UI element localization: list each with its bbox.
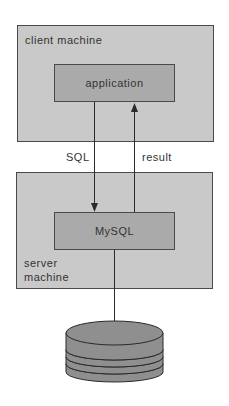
result-arrow-icon	[131, 103, 138, 212]
connectors-and-database	[0, 0, 229, 406]
database-disk-stack-icon	[66, 321, 163, 382]
sql-arrow-icon	[91, 102, 98, 212]
